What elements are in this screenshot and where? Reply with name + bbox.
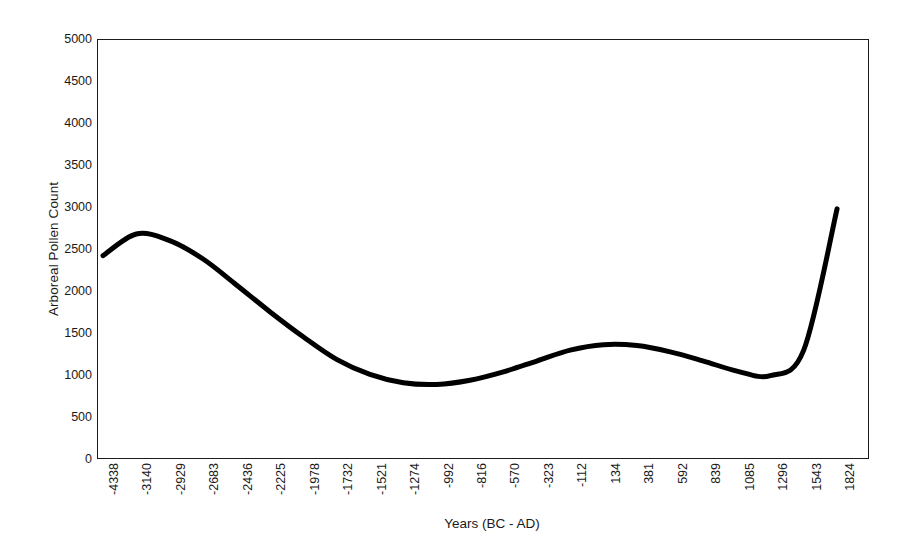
x-tick-label: -2436 (241, 463, 255, 523)
y-tick-label: 2500 (40, 242, 92, 256)
y-tick-label: 2000 (40, 284, 92, 298)
y-tick-label: 1000 (40, 368, 92, 382)
x-tick-label: 1085 (743, 463, 757, 523)
data-series-line (103, 209, 837, 385)
x-tick-label: 381 (642, 463, 656, 523)
plot-area (97, 39, 869, 459)
x-tick-label: -1274 (408, 463, 422, 523)
x-tick-label: -1732 (341, 463, 355, 523)
x-axis-tick-labels: -4338-3140-2929-2683-2436-2225-1978-1732… (97, 459, 869, 519)
x-tick-label: 1543 (810, 463, 824, 523)
y-tick-label: 4500 (40, 74, 92, 88)
x-axis-title: Years (BC - AD) (97, 516, 887, 531)
x-tick-label: 592 (676, 463, 690, 523)
pollen-count-line-chart: Arboreal Pollen Count 050010001500200025… (0, 0, 899, 557)
x-tick-label: 1296 (776, 463, 790, 523)
x-tick-label: -2683 (207, 463, 221, 523)
x-tick-label: -112 (575, 463, 589, 523)
y-tick-label: 500 (40, 410, 92, 424)
y-axis-tick-labels: 0500100015002000250030003500400045005000 (40, 0, 92, 557)
plot-svg (98, 40, 868, 458)
x-tick-label: 134 (609, 463, 623, 523)
y-tick-label: 3500 (40, 158, 92, 172)
x-tick-label: -1521 (375, 463, 389, 523)
y-tick-label: 4000 (40, 116, 92, 130)
x-tick-label: -570 (508, 463, 522, 523)
x-tick-label: -323 (542, 463, 556, 523)
y-tick-label: 3000 (40, 200, 92, 214)
y-tick-label: 5000 (40, 32, 92, 46)
x-tick-label: -3140 (140, 463, 154, 523)
x-tick-label: -816 (475, 463, 489, 523)
x-tick-label: 1824 (843, 463, 857, 523)
x-tick-label: 839 (709, 463, 723, 523)
x-tick-label: -2225 (274, 463, 288, 523)
y-tick-label: 1500 (40, 326, 92, 340)
x-tick-label: -1978 (308, 463, 322, 523)
y-tick-label: 0 (40, 452, 92, 466)
x-tick-label: -4338 (107, 463, 121, 523)
x-tick-label: -2929 (174, 463, 188, 523)
x-tick-label: -992 (442, 463, 456, 523)
